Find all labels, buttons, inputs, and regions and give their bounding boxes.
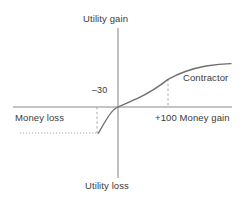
axis-label-money-gain: +100 Money gain (155, 113, 230, 123)
utility-curve-figure: Utility gain Utility loss Money loss +10… (0, 0, 248, 201)
curve-label-contractor: Contractor (183, 73, 228, 83)
axis-label-utility-loss: Utility loss (85, 181, 129, 191)
axis-label-utility-gain: Utility gain (83, 14, 128, 24)
utility-curve-svg (0, 0, 248, 201)
tick-label-minus-30: –30 (92, 86, 107, 95)
axis-label-money-loss: Money loss (15, 113, 64, 123)
